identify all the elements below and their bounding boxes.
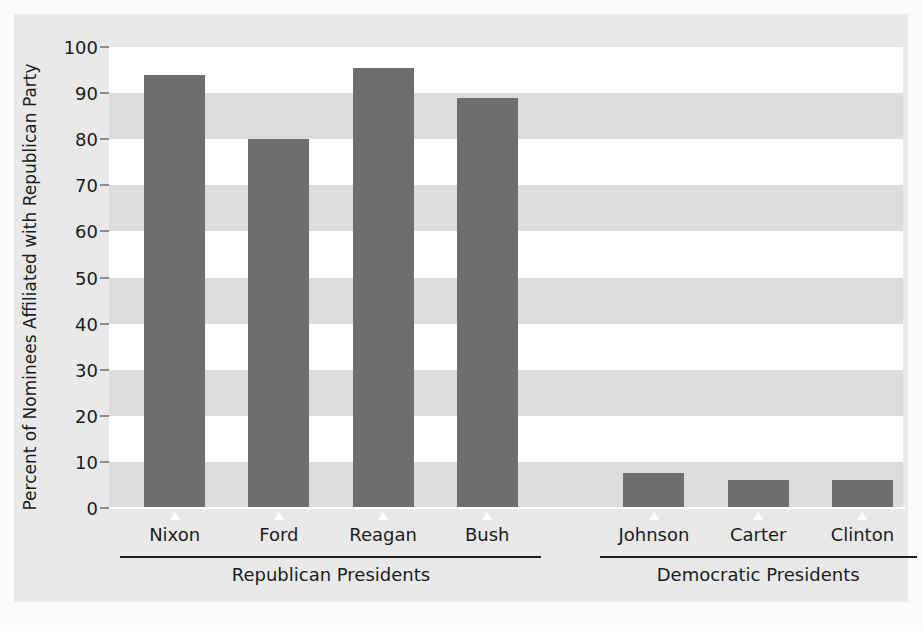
bar-nixon <box>144 75 205 508</box>
y-tick-mark <box>100 461 109 463</box>
y-tick-label: 70 <box>58 175 98 196</box>
y-tick-label: 100 <box>58 37 98 58</box>
x-tick-marker <box>649 512 659 520</box>
y-tick-label: 60 <box>58 221 98 242</box>
plot-area <box>109 47 903 508</box>
x-tick-label-reagan: Reagan <box>349 524 417 545</box>
y-tick-label: 30 <box>58 359 98 380</box>
y-tick-mark <box>100 184 109 186</box>
bar-ford <box>248 139 309 508</box>
x-tick-marker <box>170 512 180 520</box>
x-tick-label-nixon: Nixon <box>149 524 200 545</box>
x-tick-marker <box>482 512 492 520</box>
group-rule <box>600 556 917 558</box>
y-tick-mark <box>100 507 109 509</box>
y-axis-ticks <box>100 0 110 631</box>
y-tick-label: 10 <box>58 451 98 472</box>
y-tick-mark <box>100 369 109 371</box>
y-tick-mark <box>100 92 109 94</box>
y-tick-label: 0 <box>58 498 98 519</box>
y-tick-label: 20 <box>58 405 98 426</box>
bar-bush <box>457 98 518 508</box>
group-rule <box>120 556 541 558</box>
group-label: Democratic Presidents <box>657 564 860 585</box>
x-tick-label-bush: Bush <box>465 524 510 545</box>
bar-clinton <box>832 480 893 508</box>
bar-johnson <box>623 473 684 508</box>
y-tick-mark <box>100 138 109 140</box>
y-tick-label: 90 <box>58 83 98 104</box>
x-tick-label-clinton: Clinton <box>831 524 894 545</box>
chart-figure: 0102030405060708090100 Percent of Nomine… <box>0 0 922 631</box>
y-tick-mark <box>100 277 109 279</box>
y-tick-mark <box>100 46 109 48</box>
x-tick-label-johnson: Johnson <box>618 524 689 545</box>
y-tick-mark <box>100 230 109 232</box>
group-label: Republican Presidents <box>232 564 430 585</box>
bar-reagan <box>353 68 414 508</box>
y-tick-mark <box>100 415 109 417</box>
x-tick-marker <box>378 512 388 520</box>
y-tick-label: 50 <box>58 267 98 288</box>
y-tick-label: 40 <box>58 313 98 334</box>
bar-carter <box>728 480 789 508</box>
x-tick-label-carter: Carter <box>730 524 787 545</box>
x-axis-baseline <box>104 507 905 509</box>
y-axis-tick-labels: 0102030405060708090100 <box>52 0 98 631</box>
x-tick-marker <box>274 512 284 520</box>
y-tick-mark <box>100 323 109 325</box>
x-tick-marker <box>857 512 867 520</box>
x-tick-label-ford: Ford <box>259 524 298 545</box>
y-axis-title: Percent of Nominees Affiliated with Repu… <box>20 52 40 522</box>
x-tick-marker <box>753 512 763 520</box>
y-tick-label: 80 <box>58 129 98 150</box>
